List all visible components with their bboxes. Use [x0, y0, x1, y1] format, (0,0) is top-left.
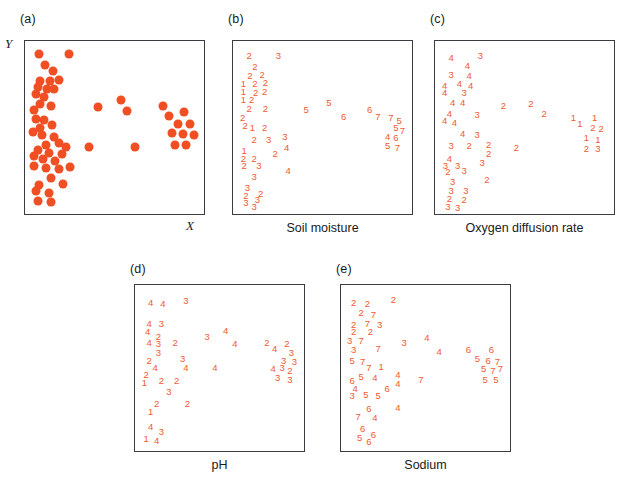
class-code-marker: 5: [326, 98, 331, 108]
scatter-point: [47, 102, 56, 111]
class-code-marker: 7: [498, 365, 503, 375]
class-code-marker: 4: [284, 143, 289, 153]
class-code-marker: 2: [251, 135, 256, 145]
panel-b-plot-area[interactable]: 2322212212212225566722175572465723341222…: [232, 40, 413, 215]
scatter-point: [29, 106, 38, 115]
scatter-point: [33, 196, 42, 205]
class-code-marker: 2: [590, 123, 595, 133]
scatter-point: [29, 152, 38, 161]
class-code-marker: 3: [401, 338, 406, 348]
class-code-marker: 4: [465, 61, 470, 71]
class-code-marker: 4: [232, 340, 237, 350]
class-code-marker: 6: [486, 356, 491, 366]
class-code-marker: 4: [148, 422, 153, 432]
scatter-point: [170, 140, 179, 149]
class-code-marker: 3: [159, 427, 164, 437]
scatter-point: [168, 129, 177, 138]
class-code-marker: 3: [282, 132, 287, 142]
scatter-point: [123, 106, 132, 115]
scatter-point: [158, 102, 167, 111]
class-code-marker: 4: [452, 118, 457, 128]
class-code-marker: 2: [365, 300, 370, 310]
class-code-marker: 6: [366, 405, 371, 415]
class-code-marker: 3: [377, 320, 382, 330]
class-code-marker: 2: [246, 51, 251, 61]
class-code-marker: 2: [252, 62, 257, 72]
panel-a-plot-area[interactable]: [24, 40, 205, 215]
panel-b-tag: (b): [228, 12, 244, 26]
class-code-marker: 4: [154, 436, 159, 446]
class-code-marker: 4: [450, 98, 455, 108]
class-code-marker: 4: [153, 363, 158, 373]
scatter-point: [85, 142, 94, 151]
class-code-marker: 1: [571, 113, 576, 123]
panel-c-plot-area[interactable]: 4343444443442224344111224311233222243332…: [434, 40, 615, 215]
class-code-marker: 5: [481, 365, 486, 375]
panel-d-tag: (d): [130, 262, 146, 276]
scatter-point: [57, 149, 66, 158]
class-code-marker: 6: [341, 112, 346, 122]
class-code-marker: 3: [156, 348, 161, 358]
class-code-marker: 2: [146, 356, 151, 366]
class-code-marker: 1: [584, 134, 589, 144]
class-code-marker: 6: [385, 384, 390, 394]
class-code-marker: 4: [148, 298, 153, 308]
scatter-point: [54, 75, 63, 84]
scatter-point: [182, 140, 191, 149]
class-code-marker: 2: [185, 399, 190, 409]
scatter-point: [47, 173, 56, 182]
class-code-marker: 2: [368, 328, 373, 338]
scatter-point: [32, 187, 41, 196]
class-code-marker: 4: [145, 328, 150, 338]
class-code-marker: 4: [160, 300, 165, 310]
scatter-point: [58, 179, 67, 188]
class-code-marker: 4: [460, 129, 465, 139]
class-code-marker: 4: [460, 98, 465, 108]
class-code-marker: 1: [250, 123, 255, 133]
panel-d-plot-area[interactable]: 4434342344324242332333444432233122322143…: [134, 284, 305, 452]
class-code-marker: 2: [466, 141, 471, 151]
class-code-marker: 2: [262, 123, 267, 133]
class-code-marker: 5: [493, 375, 498, 385]
scatter-point: [66, 163, 75, 172]
class-code-marker: 3: [292, 357, 297, 367]
class-code-marker: 5: [393, 123, 398, 133]
class-code-marker: 7: [418, 375, 423, 385]
scatter-point: [38, 155, 47, 164]
panel-e-plot-area[interactable]: 2222727322373437466575677157754475564463…: [340, 284, 511, 452]
class-code-marker: 7: [375, 112, 380, 122]
panel-c-caption: Oxygen diffusion rate: [424, 221, 623, 235]
class-code-marker: 3: [475, 110, 480, 120]
class-code-marker: 3: [287, 375, 292, 385]
scatter-point: [117, 95, 126, 104]
class-code-marker: 1: [577, 120, 582, 130]
class-code-marker: 5: [363, 390, 368, 400]
class-code-marker: 3: [166, 387, 171, 397]
class-code-marker: 2: [242, 121, 247, 131]
class-code-marker: 2: [264, 338, 269, 348]
class-code-marker: 5: [385, 141, 390, 151]
class-code-marker: 3: [266, 135, 271, 145]
class-code-marker: 4: [442, 117, 447, 127]
class-code-marker: 4: [437, 347, 442, 357]
class-code-marker: 5: [375, 391, 380, 401]
class-code-marker: 3: [251, 172, 256, 182]
class-code-marker: 3: [475, 131, 480, 141]
class-code-marker: 3: [159, 319, 164, 329]
scatter-point: [65, 50, 74, 59]
figure-page: { "figure": { "type": "multi-panel-scatt…: [0, 0, 623, 487]
class-code-marker: 1: [241, 95, 246, 105]
class-code-marker: 2: [391, 295, 396, 305]
class-code-marker: 3: [455, 203, 460, 213]
scatter-point: [173, 120, 182, 129]
class-code-marker: 3: [448, 141, 453, 151]
class-code-marker: 2: [584, 144, 589, 154]
scatter-point: [50, 85, 59, 94]
class-code-marker: 4: [395, 403, 400, 413]
scatter-point: [28, 128, 37, 137]
class-code-marker: 4: [442, 89, 447, 99]
class-code-marker: 4: [372, 374, 377, 384]
class-code-marker: 4: [146, 338, 151, 348]
class-code-marker: 4: [448, 53, 453, 63]
class-code-marker: 7: [356, 412, 361, 422]
